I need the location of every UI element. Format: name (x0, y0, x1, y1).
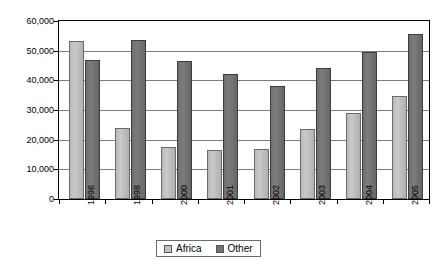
x-axis-label-2001: 2001 (226, 185, 235, 205)
x-axis-tick-mark (105, 200, 106, 204)
bar-group (254, 21, 285, 199)
x-axis-tick-mark (429, 200, 430, 204)
x-axis-label-2004: 2004 (365, 185, 374, 205)
x-axis-label-2002: 2002 (272, 185, 281, 205)
bar-group (346, 21, 377, 199)
bar-africa-2000 (161, 147, 176, 199)
bar-africa-2004 (346, 113, 361, 199)
x-axis-label-1998: 1998 (133, 185, 142, 205)
bar-africa-2002 (254, 149, 269, 199)
x-axis-tick-mark (59, 200, 60, 204)
bar-group (300, 21, 331, 199)
bar-africa-1998 (115, 128, 130, 199)
bars-layer (59, 21, 429, 199)
x-axis-tick-mark (198, 200, 199, 204)
legend-label: Africa (176, 243, 202, 254)
bar-other-2005 (408, 34, 423, 199)
legend-swatch-africa-icon (164, 245, 172, 253)
legend-label: Other (228, 243, 253, 254)
x-axis-label-2003: 2003 (318, 185, 327, 205)
x-axis-tick-mark (244, 200, 245, 204)
bar-africa-2005 (392, 96, 407, 199)
bar-other-2002 (270, 86, 285, 199)
bar-group (69, 21, 100, 199)
y-axis-tick-label: 60,000 (0, 17, 54, 26)
bar-group (115, 21, 146, 199)
y-axis-tick-label: 0 (0, 195, 54, 204)
bar-other-1996 (85, 60, 100, 199)
legend-item-other: Other (216, 243, 253, 254)
y-axis-tick-label: 20,000 (0, 136, 54, 145)
bar-other-2003 (316, 68, 331, 199)
y-axis-tick-label: 50,000 (0, 47, 54, 56)
bar-other-2001 (223, 74, 238, 199)
legend-item-africa: Africa (164, 243, 202, 254)
x-axis-tick-mark (290, 200, 291, 204)
x-axis-tick-mark (337, 200, 338, 204)
bar-other-2000 (177, 61, 192, 199)
x-axis-label-2005: 2005 (411, 185, 420, 205)
x-axis-label-2000: 2000 (180, 185, 189, 205)
bar-africa-2001 (207, 150, 222, 199)
y-axis-tick-label: 40,000 (0, 76, 54, 85)
bar-group (392, 21, 423, 199)
y-axis-tick-label: 10,000 (0, 165, 54, 174)
bar-group (207, 21, 238, 199)
x-axis-label-1996: 1996 (87, 185, 96, 205)
bar-chart: 010,00020,00030,00040,00050,00060,000 19… (0, 0, 442, 265)
x-axis-tick-mark (152, 200, 153, 204)
chart-legend: AfricaOther (156, 240, 261, 257)
bar-other-1998 (131, 40, 146, 199)
x-axis-tick-mark (383, 200, 384, 204)
bar-group (161, 21, 192, 199)
bar-other-2004 (362, 52, 377, 199)
bar-africa-2003 (300, 129, 315, 199)
bar-africa-1996 (69, 41, 84, 199)
legend-swatch-other-icon (216, 245, 224, 253)
y-axis-tick-label: 30,000 (0, 106, 54, 115)
